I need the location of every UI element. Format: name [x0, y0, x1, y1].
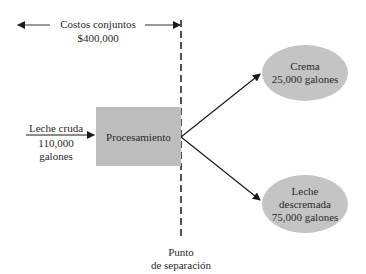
- processing-label: Procesamiento: [106, 131, 171, 143]
- split-point-label-2: de separación: [140, 259, 222, 272]
- split-point-label-1: Punto: [140, 246, 222, 259]
- input-unit: galones: [20, 150, 92, 163]
- skim-milk-product: Leche descremada 75,000 galones: [262, 175, 348, 233]
- skim-arrow: [181, 137, 260, 200]
- skim-quantity: 75,000 galones: [272, 211, 339, 224]
- cream-label: Crema: [290, 60, 319, 73]
- joint-cost-amount: $400,000: [52, 32, 144, 45]
- skim-label-1: Leche: [292, 185, 319, 198]
- joint-cost-label: Costos conjuntos: [52, 18, 144, 31]
- skim-label-2: descremada: [279, 198, 331, 211]
- cream-arrow: [181, 74, 260, 137]
- cream-quantity: 25,000 galones: [272, 73, 339, 86]
- input-quantity: 110,000: [20, 137, 92, 150]
- processing-box: Procesamiento: [96, 107, 181, 166]
- cream-product: Crema 25,000 galones: [262, 45, 348, 101]
- input-label: Leche cruda: [20, 122, 92, 135]
